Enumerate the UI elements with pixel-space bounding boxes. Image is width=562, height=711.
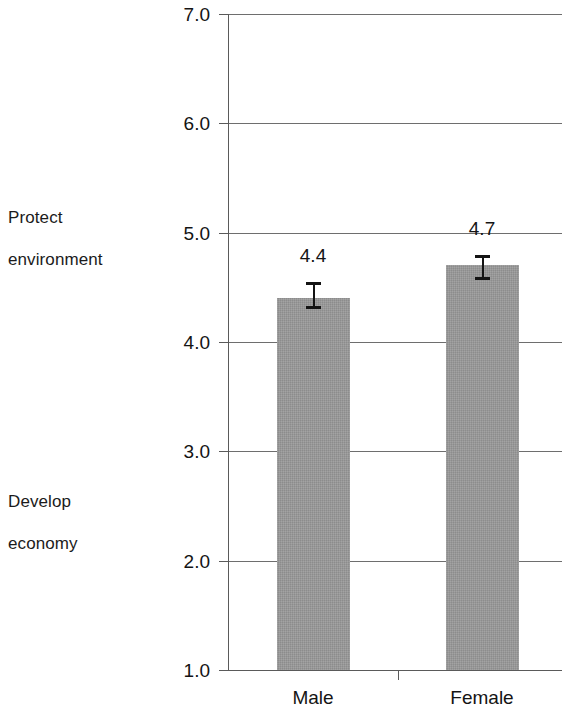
y-tick-label: 2.0 (152, 552, 210, 571)
plot-area (228, 14, 562, 670)
y-tick-mark (219, 561, 229, 562)
y-tick-mark (219, 670, 229, 671)
scale-anchor-top: Protect environment (8, 186, 103, 291)
error-bar-male (306, 282, 321, 309)
y-tick-label: 4.0 (152, 333, 210, 352)
error-bar-cap-bottom (475, 277, 490, 280)
x-tick-mark (398, 670, 399, 680)
scale-anchor-bottom-line2: economy (8, 533, 78, 554)
value-label-female: 4.7 (442, 219, 522, 238)
gridline (228, 670, 562, 671)
y-tick-mark (219, 123, 229, 124)
y-tick-label: 1.0 (152, 661, 210, 680)
gridline (228, 14, 562, 15)
y-tick-mark (219, 233, 229, 234)
value-label-male: 4.4 (273, 246, 353, 265)
y-tick-mark (219, 342, 229, 343)
error-bar-stem (482, 257, 484, 278)
y-tick-mark (219, 14, 229, 15)
error-bar-stem (313, 284, 315, 307)
bar-male (277, 298, 350, 670)
y-tick-label: 3.0 (152, 442, 210, 461)
scale-anchor-bottom: Develop economy (8, 470, 78, 575)
x-tick-label-male: Male (253, 688, 373, 707)
error-bar-cap-bottom (306, 306, 321, 309)
y-tick-label: 5.0 (152, 224, 210, 243)
scale-anchor-top-line2: environment (8, 249, 103, 270)
y-tick-mark (219, 451, 229, 452)
scale-anchor-bottom-line1: Develop (8, 491, 78, 512)
bar-chart-figure: Protect environment Develop economy 7.06… (0, 0, 562, 711)
scale-anchor-top-line1: Protect (8, 207, 103, 228)
error-bar-female (475, 255, 490, 280)
y-tick-label: 7.0 (152, 5, 210, 24)
bar-female (446, 265, 519, 670)
y-tick-label: 6.0 (152, 114, 210, 133)
gridline (228, 123, 562, 124)
y-tick-labels: 7.06.05.04.03.02.01.0 (152, 0, 210, 711)
x-tick-label-female: Female (422, 688, 542, 707)
